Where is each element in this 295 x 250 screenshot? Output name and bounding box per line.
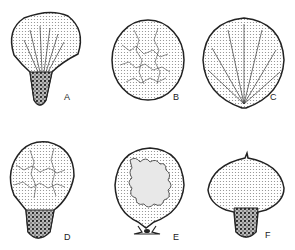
figure-canvas: [0, 0, 295, 250]
panel-d: [10, 142, 74, 238]
panel-label-c: C: [270, 92, 277, 102]
panel-label-a: A: [64, 92, 70, 102]
panel-b: [112, 20, 184, 100]
panel-a: [12, 12, 81, 105]
panel-f: [208, 153, 284, 237]
panel-e: [115, 148, 184, 234]
panel-label-b: B: [173, 92, 179, 102]
panel-label-e: E: [173, 232, 179, 242]
panel-label-d: D: [64, 232, 71, 242]
panel-label-f: F: [265, 230, 271, 240]
